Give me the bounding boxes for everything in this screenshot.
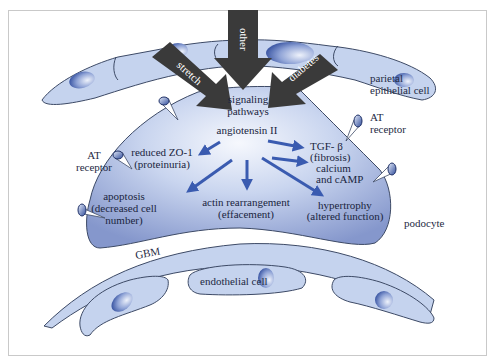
nucleus — [375, 291, 393, 309]
right-receptor-label-line2: receptor — [370, 123, 406, 135]
parietal-label-line1: parietal — [370, 72, 403, 84]
left-receptor-label-line2: receptor — [76, 161, 112, 173]
podocyte-diagram: parietal epithelial cell podocyte stretc… — [0, 0, 497, 364]
effect-apoptosis-line3: number) — [105, 214, 143, 227]
podocyte-label: podocyte — [404, 217, 444, 229]
left-receptor-label-line1: AT — [87, 149, 101, 161]
endothelial-label: endothelial cell — [200, 275, 268, 287]
mediator-label: angiotensin II — [217, 124, 278, 136]
effect-apoptosis-line1: apoptosis — [103, 190, 145, 202]
parietal-label-line2: epithelial cell — [370, 84, 430, 96]
effect-zo1-line1: reduced ZO-1 — [131, 146, 192, 158]
gbm-label: GBM — [134, 245, 161, 261]
effect-actin-line1: actin rearrangement — [202, 196, 290, 208]
signaling-label-line1: signaling — [228, 93, 269, 105]
at-receptor-icon — [346, 115, 362, 141]
signaling-label-line2: pathways — [227, 105, 269, 117]
right-receptor-label-line1: AT — [370, 111, 384, 123]
effect-calcium-line2: and cAMP — [316, 173, 363, 185]
input-label-other: other — [238, 28, 250, 51]
effect-hypertrophy-line2: (altered function) — [307, 210, 384, 223]
effect-actin-line2: (effacement) — [218, 208, 274, 221]
effect-zo1-line2: (proteinuria) — [134, 158, 190, 171]
